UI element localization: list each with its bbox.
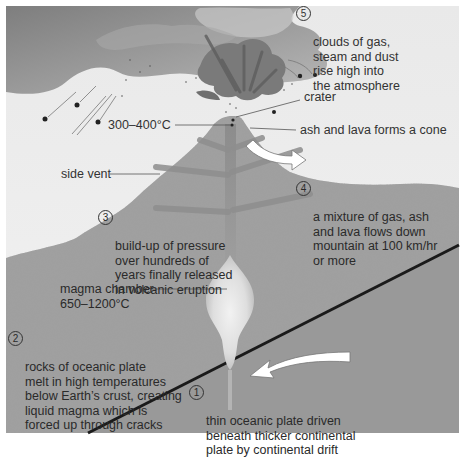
step-5-number: 5 xyxy=(296,6,311,21)
step-4-label: 4 a mixture of gas, ash and lava flows d… xyxy=(296,181,437,268)
step-2-number: 2 xyxy=(8,331,23,346)
step-5-label: 5 clouds of gas, steam and dust rise hig… xyxy=(296,6,400,93)
cone-label: ash and lava forms a cone xyxy=(300,123,447,138)
step-1-label: 1 thin oceanic plate driven beneath thic… xyxy=(189,385,355,458)
crater-label: crater xyxy=(304,90,336,105)
magma-chamber-label: magma chamber 650–1200°C xyxy=(60,282,154,311)
step-4-number: 4 xyxy=(296,181,311,196)
step-2-label: 2 rocks of oceanic plate melt in high te… xyxy=(8,331,182,433)
side-vent-label: side vent xyxy=(61,167,111,182)
crater-temperature-label: 300–400°C xyxy=(108,118,171,133)
step-1-number: 1 xyxy=(189,385,204,400)
step-3-number: 3 xyxy=(98,210,113,225)
